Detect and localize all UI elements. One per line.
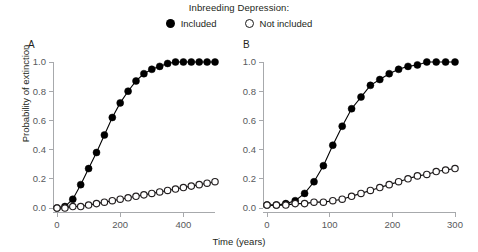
svg-text:100: 100	[322, 219, 338, 230]
svg-text:200: 200	[384, 219, 400, 230]
plot-panel-b: 0.00.20.40.60.81.00100200300	[0, 0, 478, 252]
figure-root: Inbreeding Depression: Included Not incl…	[0, 0, 478, 252]
svg-text:0.0: 0.0	[243, 202, 256, 213]
svg-text:0: 0	[264, 219, 269, 230]
svg-text:0.4: 0.4	[243, 144, 256, 155]
svg-text:0.8: 0.8	[243, 86, 256, 97]
svg-text:1.0: 1.0	[243, 56, 256, 67]
svg-text:300: 300	[447, 219, 463, 230]
svg-text:0.2: 0.2	[243, 173, 256, 184]
svg-text:0.6: 0.6	[243, 115, 256, 126]
